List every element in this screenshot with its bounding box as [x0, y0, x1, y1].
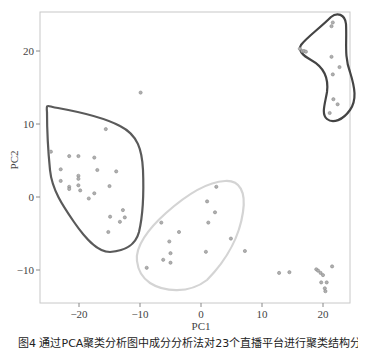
- data-point: [332, 98, 335, 101]
- data-point: [96, 168, 99, 171]
- data-point: [168, 240, 171, 243]
- data-point: [321, 274, 324, 277]
- x-tick-label: 20: [318, 308, 330, 320]
- data-point: [288, 271, 291, 274]
- data-point: [338, 66, 341, 69]
- data-point: [229, 237, 232, 240]
- data-point: [320, 281, 323, 284]
- data-point: [109, 215, 112, 218]
- data-point: [243, 249, 246, 252]
- data-point: [107, 230, 110, 233]
- y-axis-label: PC2: [8, 151, 20, 170]
- data-point: [115, 170, 118, 173]
- data-point: [77, 177, 80, 180]
- data-point: [331, 265, 334, 268]
- y-tick-label: 20: [23, 45, 35, 57]
- data-point: [68, 187, 71, 190]
- data-point: [162, 258, 165, 261]
- data-point: [328, 111, 331, 114]
- y-tick-label: 0: [29, 191, 35, 203]
- data-point: [77, 155, 80, 158]
- data-point: [93, 192, 96, 195]
- data-point: [160, 221, 163, 224]
- data-point: [59, 168, 62, 171]
- data-point: [59, 179, 62, 182]
- y-axis: −10 0 10 20 PC2: [8, 45, 40, 276]
- data-point: [206, 200, 209, 203]
- figure-caption: 图4 通过PCA聚类分析图中成分分析法对23个直播平台进行聚类结构分析: [18, 334, 358, 348]
- data-point: [336, 103, 339, 106]
- data-point: [325, 281, 328, 284]
- data-point: [145, 266, 148, 269]
- data-point: [118, 220, 121, 223]
- data-point: [330, 25, 333, 28]
- data-point: [104, 128, 107, 131]
- y-tick-label: −10: [17, 264, 35, 276]
- data-point: [87, 197, 90, 200]
- data-point: [121, 209, 124, 212]
- data-point: [49, 150, 52, 153]
- x-tick-label: −20: [70, 308, 88, 320]
- data-point: [331, 73, 334, 76]
- data-point: [324, 290, 327, 293]
- data-point: [278, 271, 281, 274]
- data-point: [123, 216, 126, 219]
- y-tick-label: 10: [23, 118, 35, 130]
- data-point: [139, 91, 142, 94]
- data-point: [215, 185, 218, 188]
- data-point: [169, 261, 172, 264]
- x-tick-label: 10: [257, 308, 269, 320]
- data-point: [304, 50, 307, 53]
- data-point: [169, 252, 172, 255]
- data-point: [177, 230, 180, 233]
- x-tick-label: 0: [198, 308, 204, 320]
- x-axis-label: PC1: [192, 320, 211, 332]
- data-point: [330, 55, 333, 58]
- data-point: [331, 21, 334, 24]
- x-tick-label: −10: [131, 308, 149, 320]
- data-point: [93, 156, 96, 159]
- data-point: [77, 184, 80, 187]
- data-point: [79, 189, 82, 192]
- x-axis: −20 −10 0 10 20 PC1: [70, 303, 329, 332]
- data-point: [207, 221, 210, 224]
- data-point: [213, 211, 216, 214]
- data-point: [108, 185, 111, 188]
- data-point: [68, 155, 71, 158]
- data-point: [204, 250, 207, 253]
